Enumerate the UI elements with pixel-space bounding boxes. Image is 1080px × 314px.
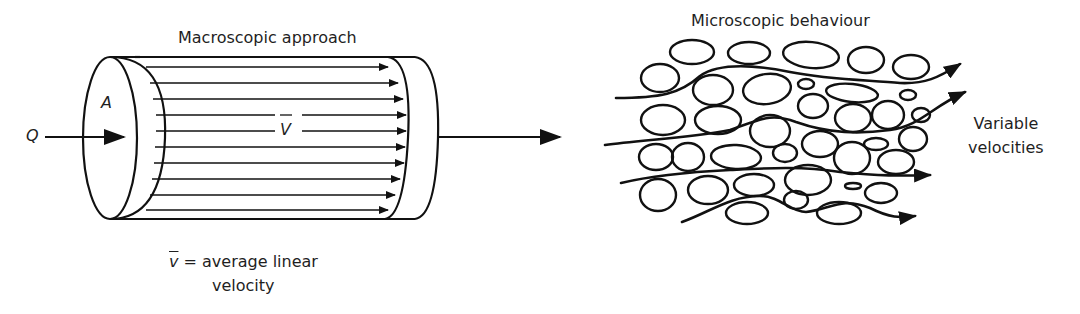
velocity-caption-line2: velocity — [212, 276, 275, 295]
velocity-caption: v = average linear — [169, 252, 318, 271]
velocity-caption-line1: = average linear — [184, 252, 318, 271]
flow-lines — [146, 67, 406, 210]
diagram-canvas — [0, 0, 1080, 314]
area-label: A — [101, 93, 112, 112]
variable-velocities-line2: velocities — [968, 136, 1044, 160]
flow-rate-label: Q — [26, 126, 39, 145]
variable-velocities-line1: Variable — [968, 112, 1044, 136]
mean-velocity-label: V — [280, 120, 291, 139]
velocity-symbol: v — [169, 252, 178, 271]
macroscopic-title: Macroscopic approach — [178, 28, 357, 47]
outlet-outer-ring — [415, 57, 438, 219]
microscopic-title: Microscopic behaviour — [691, 11, 870, 30]
variable-velocities-label: Variable velocities — [968, 112, 1044, 160]
